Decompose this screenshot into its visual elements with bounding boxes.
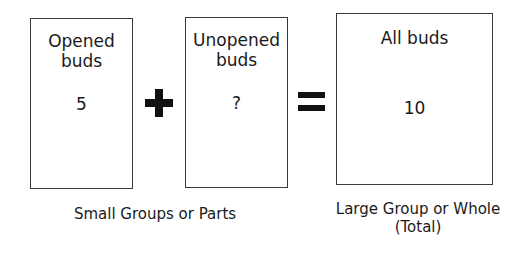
whole-caption: Large Group or Whole (Total)	[318, 200, 518, 236]
unopened-buds-box: Unopened buds ?	[185, 17, 288, 188]
box-value: ?	[186, 93, 287, 113]
box-value: 10	[337, 98, 492, 118]
all-buds-box: All buds 10	[336, 13, 493, 185]
opened-buds-box: Opened buds 5	[30, 18, 133, 189]
equals-icon	[298, 92, 325, 111]
box-label: Opened buds	[31, 31, 132, 71]
parts-caption: Small Groups or Parts	[40, 205, 270, 223]
box-label: All buds	[337, 28, 492, 48]
box-label: Unopened buds	[186, 30, 287, 70]
plus-icon	[145, 89, 173, 117]
whole-caption-line2: (Total)	[318, 218, 518, 236]
box-value: 5	[31, 94, 132, 114]
whole-caption-line1: Large Group or Whole	[318, 200, 518, 218]
